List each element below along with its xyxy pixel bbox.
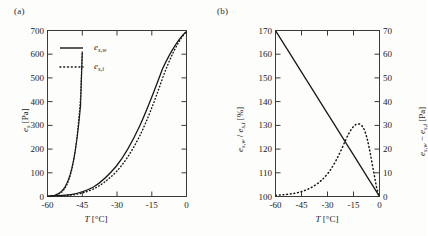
panel-b-y-tick-labels-left: 100 110 120 130 140 150 160 170 bbox=[259, 26, 273, 202]
xtick-m15: -15 bbox=[348, 200, 360, 210]
ytickL-150: 150 bbox=[259, 73, 273, 83]
ytickR-50: 50 bbox=[383, 73, 393, 83]
panel-a-x-axis-title: T [°C] bbox=[85, 214, 108, 224]
panel-a-y-axis-title: es [Pa] bbox=[20, 108, 31, 132]
ytickR-60: 60 bbox=[383, 49, 393, 59]
ytickL-110: 110 bbox=[259, 168, 273, 178]
panel-a-legend bbox=[0, 0, 213, 236]
panel-b-x-axis-title: T [°C] bbox=[316, 214, 339, 224]
ytickL-140: 140 bbox=[259, 97, 273, 107]
ytickR-30: 30 bbox=[383, 120, 393, 130]
legend-label-esw: es,w bbox=[94, 42, 107, 53]
panel-b: (b) bbox=[213, 0, 426, 236]
ytickL-120: 120 bbox=[259, 144, 273, 154]
ytickR-40: 40 bbox=[383, 97, 393, 107]
ytickR-0: 0 bbox=[383, 192, 388, 202]
curve-difference-dotted bbox=[276, 124, 380, 197]
xtick-0: 0 bbox=[377, 200, 382, 210]
ytickL-160: 160 bbox=[259, 49, 273, 59]
ytickR-70: 70 bbox=[383, 26, 393, 36]
panel-b-y-axis-title-left: es,w / es,i [%] bbox=[235, 107, 246, 152]
panel-b-x-tick-labels: -60 -45 -30 -15 0 bbox=[270, 200, 383, 210]
legend-label-esi: es,i bbox=[94, 61, 104, 72]
xtick-m45: -45 bbox=[296, 200, 308, 210]
xtick-m30: -30 bbox=[322, 200, 334, 210]
ytickL-130: 130 bbox=[259, 120, 273, 130]
ytickR-10: 10 bbox=[383, 168, 393, 178]
xtick-m60: -60 bbox=[270, 200, 282, 210]
panel-b-y-ticks-right bbox=[375, 31, 380, 197]
panel-b-y-ticks-left bbox=[276, 31, 281, 197]
panel-a: (a) bbox=[0, 0, 213, 236]
ytickR-20: 20 bbox=[383, 144, 393, 154]
ytickL-170: 170 bbox=[259, 26, 273, 36]
panel-b-y-axis-title-right: es,w − es,i [Pa] bbox=[417, 107, 428, 156]
panel-b-x-ticks-top bbox=[276, 31, 380, 36]
curve-ratio-solid bbox=[276, 31, 380, 197]
panel-b-y-tick-labels-right: 0 10 20 30 40 50 60 70 bbox=[383, 26, 393, 202]
